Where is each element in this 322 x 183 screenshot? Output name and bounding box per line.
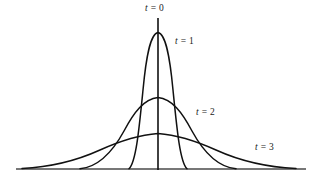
curve-label-t3-equals: =: [258, 142, 269, 152]
curve-label-t1: t = 1: [175, 36, 194, 46]
curve-label-t2-equals: =: [199, 107, 210, 117]
curve-label-t0-equals: =: [148, 3, 159, 13]
figure-canvas: [0, 0, 322, 183]
curve-label-t0: t = 0: [145, 3, 164, 13]
curve-label-t0-value: 0: [159, 3, 164, 13]
curve-label-t2-value: 2: [210, 107, 215, 117]
curve-label-t1-equals: =: [178, 36, 189, 46]
curve-label-t1-value: 1: [189, 36, 194, 46]
curve-label-t3: t = 3: [255, 142, 274, 152]
curve-label-t2: t = 2: [196, 107, 215, 117]
curve-label-t3-value: 3: [269, 142, 274, 152]
gaussian-curves-figure: t = 0 t = 1 t = 2 t = 3: [0, 0, 322, 183]
